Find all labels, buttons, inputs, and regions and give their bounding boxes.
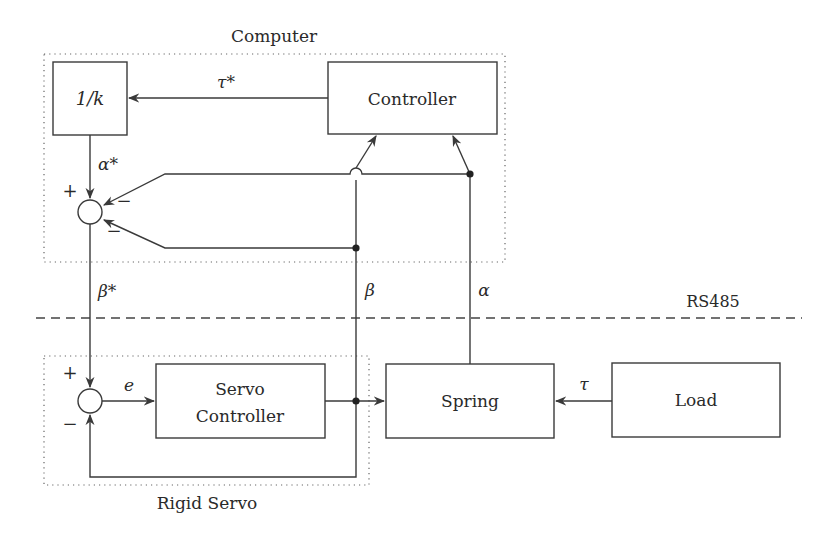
servo-controller-label-line1: Servo xyxy=(215,379,265,399)
computer-group-label: Computer xyxy=(231,26,318,46)
sum1-minus-upper-sign: − xyxy=(116,190,131,211)
sum2-plus-sign: + xyxy=(62,362,77,383)
inverse-k-label: 1/k xyxy=(76,88,104,109)
beta-feedback-signal xyxy=(104,220,356,248)
beta-to-controller-signal xyxy=(356,136,376,168)
alpha-to-controller-signal xyxy=(453,136,470,174)
alpha-label: α xyxy=(478,280,490,300)
alpha-star-label: α* xyxy=(98,154,118,174)
spring-label: Spring xyxy=(441,391,499,411)
servo-controller-label-line2: Controller xyxy=(196,406,285,426)
tau-label: τ xyxy=(579,374,589,394)
summing-junction-servo xyxy=(78,389,102,413)
beta-star-label: β* xyxy=(97,281,117,301)
sum1-plus-sign: + xyxy=(62,180,77,201)
tau-star-label: τ* xyxy=(217,72,235,92)
rs485-label: RS485 xyxy=(686,292,740,311)
rigid-servo-group-label: Rigid Servo xyxy=(157,493,258,513)
junction-dot-alpha xyxy=(466,170,473,177)
servo-controller-block xyxy=(156,364,325,438)
sum2-minus-sign: − xyxy=(62,413,77,434)
summing-junction-computer xyxy=(78,200,102,224)
controller-label: Controller xyxy=(368,89,457,109)
alpha-feedback-signal xyxy=(104,168,470,205)
error-label: e xyxy=(124,375,134,395)
beta-label: β xyxy=(364,280,375,300)
sum1-minus-lower-sign: − xyxy=(106,220,121,241)
junction-dot-beta-computer xyxy=(352,244,359,251)
load-label: Load xyxy=(675,390,718,410)
block-diagram: Computer Rigid Servo RS485 1/k Controlle… xyxy=(0,0,824,546)
junction-dot-beta-servo xyxy=(352,397,359,404)
